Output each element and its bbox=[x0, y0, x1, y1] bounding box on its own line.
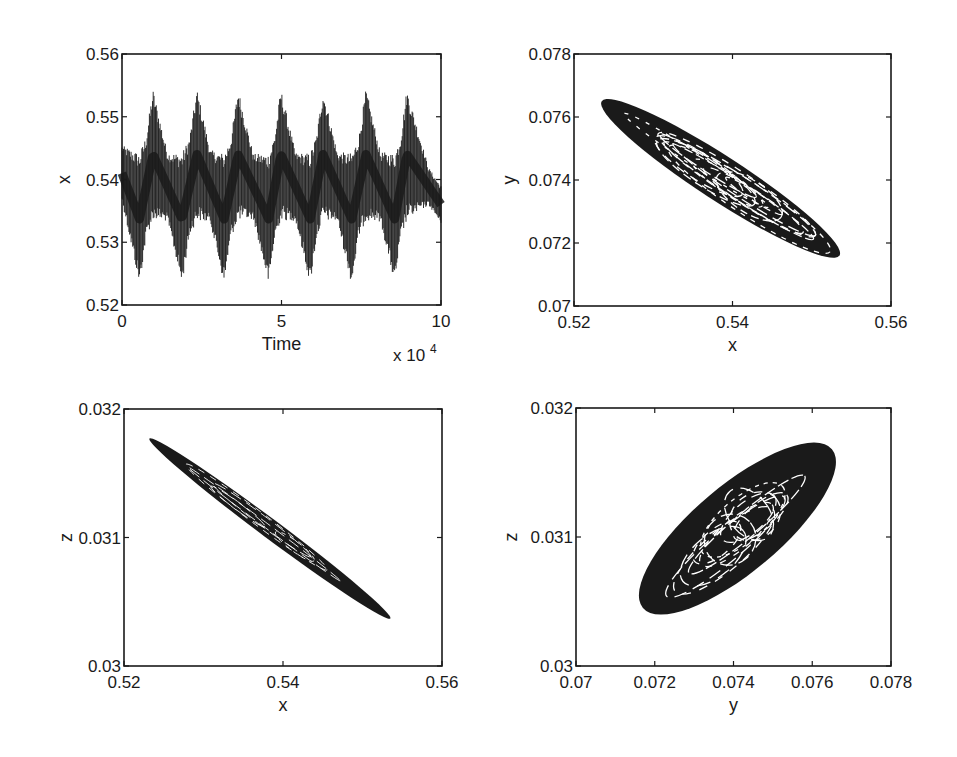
y-tick-label: 0.074 bbox=[528, 171, 571, 190]
x-tick-label: 0.56 bbox=[874, 313, 907, 332]
figure: 05100.520.530.540.550.56 Time x x 10 4 0… bbox=[0, 0, 957, 757]
y-tick-label: 0.56 bbox=[86, 45, 119, 64]
y-axis-label: z bbox=[56, 533, 76, 542]
x-tick-label: 0.076 bbox=[791, 673, 834, 692]
x-axis-label: x bbox=[728, 335, 737, 355]
y-tick-label: 0.55 bbox=[86, 108, 119, 127]
y-axis-label: x bbox=[54, 175, 74, 184]
y-tick-label: 0.032 bbox=[530, 399, 573, 418]
y-axis-label: y bbox=[499, 176, 519, 185]
y-tick-label: 0.078 bbox=[528, 45, 571, 64]
y-tick-label: 0.03 bbox=[88, 657, 121, 676]
x-tick-label: 0.56 bbox=[425, 673, 458, 692]
multiplier-base: x 10 bbox=[393, 346, 425, 365]
multiplier-exponent: 4 bbox=[430, 342, 437, 356]
y-tick-label: 0.03 bbox=[540, 657, 573, 676]
y-tick-label: 0.031 bbox=[78, 529, 121, 548]
x-axis-label: y bbox=[729, 695, 738, 715]
y-tick-label: 0.07 bbox=[538, 297, 571, 316]
x-axis-label: Time bbox=[262, 334, 301, 354]
x-tick-label: 0.54 bbox=[716, 313, 749, 332]
x-tick-label: 5 bbox=[277, 312, 286, 331]
x-tick-label: 0.078 bbox=[870, 673, 913, 692]
y-tick-label: 0.076 bbox=[528, 108, 571, 127]
y-tick-label: 0.032 bbox=[78, 400, 121, 419]
y-axis-label: z bbox=[501, 533, 521, 542]
x-tick-label: 0.072 bbox=[633, 673, 676, 692]
x-tick-label: 0.074 bbox=[712, 673, 755, 692]
y-tick-label: 0.031 bbox=[530, 528, 573, 547]
y-tick-label: 0.54 bbox=[86, 171, 119, 190]
x-tick-label: 0.54 bbox=[266, 673, 299, 692]
y-tick-label: 0.53 bbox=[86, 233, 119, 252]
x-axis-label: x bbox=[279, 695, 288, 715]
y-tick-label: 0.072 bbox=[528, 234, 571, 253]
y-tick-label: 0.52 bbox=[86, 296, 119, 315]
x-tick-label: 10 bbox=[432, 312, 451, 331]
figure-background bbox=[0, 0, 957, 757]
